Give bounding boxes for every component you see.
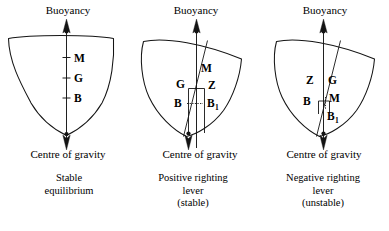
- caption-line: lever: [134, 185, 252, 198]
- caption-positive-righting-lever: Positive righting lever (stable): [134, 172, 252, 210]
- ship-stability-figure: M G B Buoyancy Centre of gravity: [0, 0, 389, 231]
- point-label-M-upright: M: [74, 52, 85, 64]
- centre-of-gravity-label-upright: Centre of gravity: [30, 148, 106, 160]
- buoyancy-node-upright: [64, 29, 68, 33]
- point-label-B1-base: B: [207, 97, 215, 109]
- caption-row: Stable equilibrium Positive righting lev…: [0, 172, 389, 230]
- gravity-node-heeled-stable: [186, 131, 190, 135]
- point-label-B-heeled-unstable: B: [303, 95, 311, 107]
- panel-negative-righting-lever: Z G B M B 1 Buoyancy Centre of gravity: [274, 4, 374, 160]
- caption-line: Positive righting: [134, 172, 252, 185]
- point-label-G-heeled-unstable: G: [328, 74, 337, 86]
- point-label-M-heeled-unstable: M: [329, 92, 340, 104]
- gravity-node-upright: [64, 132, 68, 136]
- point-label-Z-heeled-stable: Z: [208, 79, 216, 91]
- buoyancy-label-heeled-stable: Buoyancy: [174, 4, 219, 16]
- point-label-M-heeled-stable: M: [201, 62, 212, 74]
- centre-of-gravity-label-heeled-unstable: Centre of gravity: [286, 148, 362, 160]
- point-label-B-upright: B: [74, 92, 82, 104]
- caption-line: Stable: [14, 172, 124, 185]
- point-label-B1-base-unstable: B: [327, 110, 335, 122]
- centre-of-gravity-label-heeled-stable: Centre of gravity: [162, 148, 238, 160]
- point-label-B-heeled-stable: B: [174, 97, 182, 109]
- caption-negative-righting-lever: Negative righting lever (unstable): [262, 172, 384, 210]
- point-label-G-upright: G: [74, 72, 83, 84]
- point-label-B1-heeled-unstable: B 1: [327, 110, 339, 125]
- point-label-B1-subscript: 1: [215, 103, 219, 112]
- hull-outline-heeled-unstable: [274, 40, 374, 137]
- caption-line: Negative righting: [262, 172, 384, 185]
- buoyancy-node-heeled-unstable: [321, 29, 325, 33]
- hull-outline-upright: [9, 36, 114, 136]
- caption-line: equilibrium: [14, 185, 124, 198]
- caption-line: (stable): [134, 197, 252, 210]
- point-label-Z-heeled-unstable: Z: [306, 74, 314, 86]
- caption-line: (unstable): [262, 197, 384, 210]
- buoyancy-label-upright: Buoyancy: [46, 4, 91, 16]
- buoyancy-node-heeled-stable: [194, 29, 198, 33]
- point-label-B1-subscript-unstable: 1: [335, 116, 339, 125]
- panel-positive-righting-lever: M G Z B B 1 Buoyancy Centre of gravity: [141, 4, 241, 160]
- gravity-node-heeled-unstable: [321, 131, 325, 135]
- point-label-G-heeled-stable: G: [176, 78, 185, 90]
- panel-stable-equilibrium: M G B Buoyancy Centre of gravity: [9, 4, 114, 160]
- point-label-B1-heeled-stable: B 1: [207, 97, 219, 112]
- caption-line: lever: [262, 185, 384, 198]
- buoyancy-label-heeled-unstable: Buoyancy: [303, 4, 348, 16]
- caption-stable-equilibrium: Stable equilibrium: [14, 172, 124, 197]
